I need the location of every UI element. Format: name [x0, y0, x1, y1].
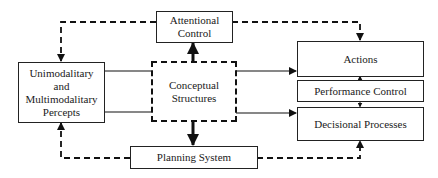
- node-label: Conceptual: [169, 79, 219, 92]
- node-planning-system: Planning System: [130, 146, 258, 169]
- edge-planning-to-decisional: [257, 141, 360, 158]
- node-label: Multimodalitary: [25, 93, 97, 106]
- node-actions: Actions: [297, 41, 424, 77]
- edge-planning-to-percepts: [61, 123, 130, 158]
- node-label: Control: [170, 27, 220, 40]
- node-label: Performance Control: [314, 85, 407, 98]
- edge-attentional-to-actions: [232, 22, 360, 40]
- node-label: and: [25, 80, 97, 93]
- node-label: Percepts: [25, 106, 97, 119]
- node-label: Attentional: [170, 14, 220, 27]
- node-attentional-control: Attentional Control: [156, 11, 233, 43]
- edge-attentional-to-percepts: [61, 22, 156, 61]
- node-label: Decisional Processes: [314, 118, 407, 131]
- node-performance-control: Performance Control: [297, 80, 424, 102]
- node-label: Actions: [343, 53, 377, 66]
- node-percepts: Unimodalitary and Multimodalitary Percep…: [18, 62, 105, 123]
- node-conceptual-structures: Conceptual Structures: [151, 61, 237, 122]
- node-decisional-processes: Decisional Processes: [297, 107, 424, 141]
- node-label: Structures: [169, 92, 219, 105]
- node-label: Planning System: [157, 151, 231, 164]
- node-label: Unimodalitary: [25, 67, 97, 80]
